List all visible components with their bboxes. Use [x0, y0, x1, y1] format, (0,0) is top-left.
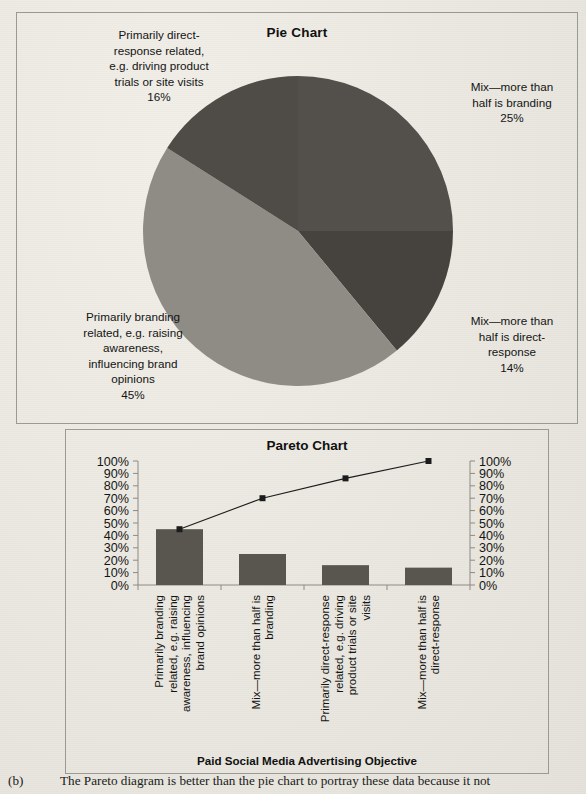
pareto-left-ytick-label: 30%: [104, 541, 129, 555]
pareto-bar-0: [156, 529, 203, 585]
pareto-left-ytick-label: 10%: [104, 566, 129, 580]
pareto-left-ytick-label: 50%: [104, 517, 129, 531]
pareto-right-ytick-label: 100%: [479, 455, 511, 469]
pareto-category-label-3: Mix—more than half isdirect-response: [416, 595, 442, 710]
pareto-right-ytick-label: 10%: [479, 566, 504, 580]
pareto-category-label-line: related, e.g. raising: [167, 595, 179, 693]
pareto-category-label-1: Mix—more than half isbranding: [250, 595, 276, 710]
pareto-left-ytick-label: 100%: [97, 455, 129, 469]
pie-label-mix-more-than-half-direct-response: Mix—more than half is direct- response 1…: [437, 313, 586, 375]
pareto-cumulative-marker-1: [260, 495, 266, 501]
caption-text: The Pareto diagram is better than the pi…: [60, 773, 580, 789]
pareto-right-ytick-label: 60%: [479, 504, 504, 518]
pie-label-primarily-direct-response: Primarily direct- response related, e.g.…: [65, 27, 253, 105]
pareto-right-ytick-label: 0%: [479, 579, 497, 593]
pareto-right-ytick-label: 30%: [479, 541, 504, 555]
pie-label-mix-more-than-half-branding: Mix—more than half is branding 25%: [437, 79, 586, 126]
pareto-right-ytick-label: 20%: [479, 554, 504, 568]
pareto-left-ytick-label: 70%: [104, 492, 129, 506]
pareto-bar-2: [322, 565, 369, 585]
figure-caption: (b) The Pareto diagram is better than th…: [0, 772, 586, 794]
pareto-category-label-0: Primarily brandingrelated, e.g. raisinga…: [153, 595, 206, 712]
pareto-category-label-line: direct-response: [429, 595, 441, 674]
pareto-left-ytick-label: 20%: [104, 554, 129, 568]
pareto-left-ytick-label: 80%: [104, 479, 129, 493]
pareto-cumulative-line: [180, 461, 429, 529]
pareto-bar-1: [239, 554, 286, 585]
pareto-cumulative-marker-3: [426, 458, 432, 464]
pareto-category-label-line: product trials or site: [346, 595, 358, 695]
pareto-right-ytick-label: 80%: [479, 479, 504, 493]
pie-slice-0: [298, 76, 453, 231]
pareto-category-label-line: Mix—more than half is: [416, 595, 428, 710]
pareto-cumulative-marker-2: [343, 475, 349, 481]
pareto-chart-panel: Pareto Chart 0%0%10%10%20%20%30%30%40%40…: [65, 429, 549, 774]
pie-chart-panel: Pie Chart Primarily direct- response rel…: [16, 12, 578, 424]
pareto-left-ytick-label: 90%: [104, 467, 129, 481]
pareto-category-label-line: Primarily branding: [153, 595, 165, 688]
pareto-right-ytick-label: 90%: [479, 467, 504, 481]
pareto-category-label-line: awareness, influencing: [180, 595, 192, 712]
pareto-category-label-line: visits: [360, 595, 372, 621]
pareto-right-ytick-label: 40%: [479, 529, 504, 543]
pareto-category-label-line: brand opinions: [194, 595, 206, 671]
pie-label-primarily-branding: Primarily branding related, e.g. raising…: [45, 309, 221, 403]
pareto-left-ytick-label: 60%: [104, 504, 129, 518]
pareto-category-label-line: Primarily direct-response: [319, 595, 331, 722]
pareto-left-ytick-label: 40%: [104, 529, 129, 543]
pareto-svg: 0%0%10%10%20%20%30%30%40%40%50%50%60%60%…: [66, 430, 550, 775]
pareto-cumulative-marker-0: [177, 526, 183, 532]
pareto-x-axis-title: Paid Social Media Advertising Objective: [66, 754, 548, 767]
pareto-category-label-line: related, e.g. driving: [333, 595, 345, 693]
pareto-left-ytick-label: 0%: [111, 579, 129, 593]
pareto-category-label-line: branding: [263, 595, 275, 640]
pareto-category-label-2: Primarily direct-responserelated, e.g. d…: [319, 595, 372, 722]
pareto-right-ytick-label: 50%: [479, 517, 504, 531]
pareto-category-label-line: Mix—more than half is: [250, 595, 262, 710]
caption-marker: (b): [8, 773, 23, 789]
pareto-bar-3: [405, 568, 452, 585]
pareto-right-ytick-label: 70%: [479, 492, 504, 506]
